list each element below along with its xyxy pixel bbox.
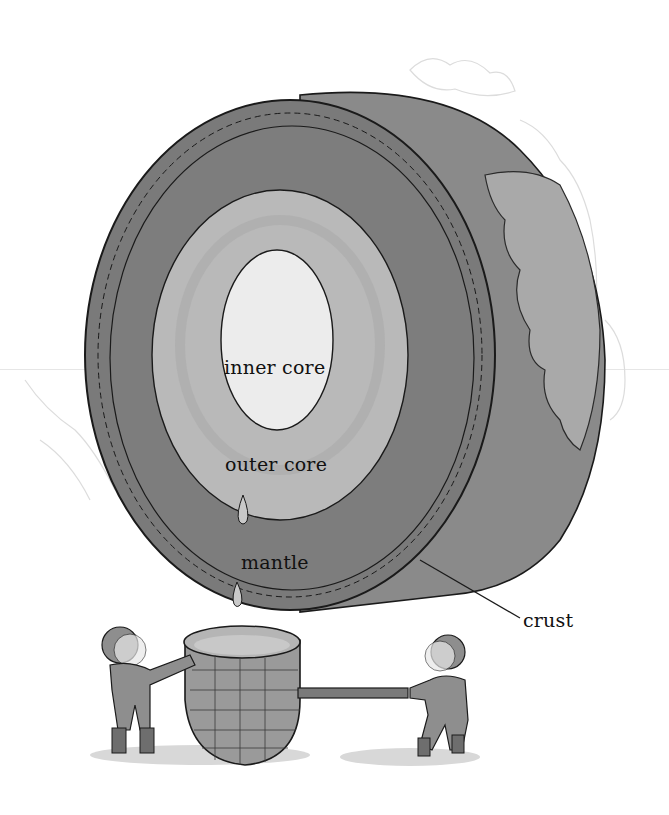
basket (184, 626, 300, 765)
label-outer-core: outer core (225, 453, 327, 475)
inner-core-layer (221, 250, 333, 430)
earth-layers-illustration (0, 0, 669, 815)
label-mantle: mantle (241, 551, 309, 573)
astronaut-right (410, 635, 468, 756)
astronaut-left (102, 627, 195, 753)
label-inner-core: inner core (224, 356, 325, 378)
label-crust: crust (523, 609, 573, 631)
pole (298, 688, 408, 698)
